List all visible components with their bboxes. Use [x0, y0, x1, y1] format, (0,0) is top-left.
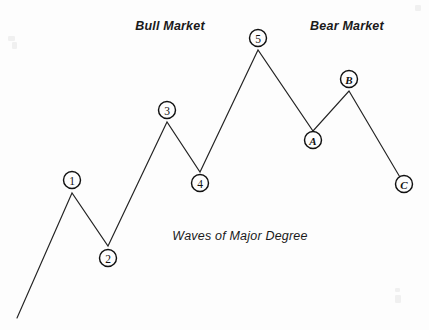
wave-node-label: C	[400, 179, 408, 191]
elliott-wave-figure: 12345ABC Bull Market Bear Market Waves o…	[0, 0, 429, 330]
scan-artifact	[415, 5, 421, 11]
wave-node-2: 2	[100, 250, 117, 267]
bear-market-label: Bear Market	[310, 19, 384, 33]
scan-artifact	[8, 36, 15, 41]
figure-caption: Waves of Major Degree	[172, 229, 307, 243]
wave-node-label: 5	[255, 33, 261, 45]
wave-node-a: A	[305, 132, 322, 149]
wave-node-5: 5	[250, 30, 267, 47]
wave-node-b: B	[341, 71, 358, 88]
wave-node-label: 3	[164, 105, 170, 117]
wave-node-c: C	[396, 176, 413, 193]
wave-chart-canvas: 12345ABC Bull Market Bear Market Waves o…	[0, 0, 429, 330]
wave-node-label: A	[308, 135, 316, 147]
scan-artifact	[395, 288, 400, 292]
wave-node-3: 3	[159, 102, 176, 119]
wave-node-4: 4	[192, 175, 209, 192]
wave-node-label: 4	[197, 178, 203, 190]
wave-node-1: 1	[64, 172, 81, 189]
wave-node-label: 1	[69, 175, 75, 187]
wave-node-label: B	[344, 74, 352, 86]
bull-market-label: Bull Market	[135, 19, 205, 33]
wave-node-label: 2	[105, 253, 111, 265]
scan-artifact	[12, 42, 17, 49]
scan-artifact	[395, 295, 401, 303]
